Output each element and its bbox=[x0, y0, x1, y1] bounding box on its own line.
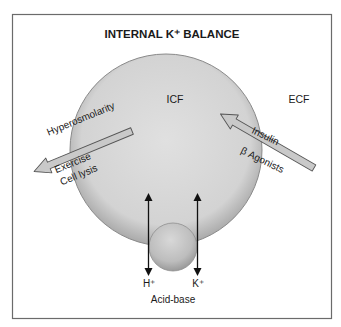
acid-base-label: Acid-base bbox=[151, 294, 196, 305]
exchanger-sphere bbox=[149, 223, 197, 271]
ecf-label: ECF bbox=[289, 93, 310, 105]
diagram-title: INTERNAL K⁺ BALANCE bbox=[105, 28, 240, 40]
h-ion-label: H⁺ bbox=[143, 278, 155, 289]
icf-label: ICF bbox=[167, 93, 184, 105]
k-ion-label: K⁺ bbox=[192, 278, 204, 289]
k-balance-diagram: INTERNAL K⁺ BALANCE ICF ECF Hyperosmolar… bbox=[0, 0, 341, 327]
icf-cell bbox=[70, 54, 262, 246]
